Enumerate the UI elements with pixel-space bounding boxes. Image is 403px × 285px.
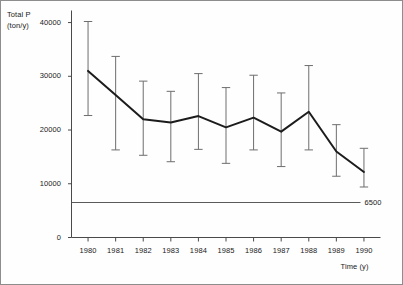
x-tick-label: 1990	[347, 246, 381, 255]
y-tick-label: 30000	[19, 71, 61, 80]
chart-figure: Total P (ton/y) 010000200003000040000 19…	[0, 0, 403, 285]
y-tick-label: 40000	[19, 18, 61, 27]
y-tick-label: 10000	[19, 179, 61, 188]
plot-area	[1, 1, 403, 285]
y-tick-label: 20000	[19, 125, 61, 134]
x-axis-title: Time (y)	[341, 262, 369, 271]
reference-line-label: 6500	[365, 198, 382, 207]
y-tick-label: 0	[35, 233, 61, 242]
